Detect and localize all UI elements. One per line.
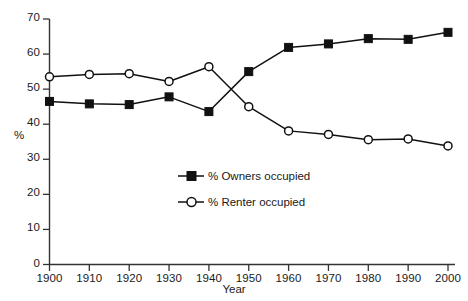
legend-markers: [178, 172, 204, 207]
data-point-owners: [444, 28, 452, 36]
data-point-owners: [324, 40, 332, 48]
legend-marker-owners: [187, 172, 196, 181]
data-point-owners: [85, 100, 93, 108]
data-point-owners: [205, 108, 213, 116]
y-axis-ticks: [43, 19, 50, 265]
y-axis-tick-label: 60: [0, 46, 40, 58]
axis-lines: [50, 19, 456, 265]
y-axis-tick-label: 30: [0, 151, 40, 163]
data-point-renter: [444, 142, 452, 150]
y-axis-tick-label: 10: [0, 221, 40, 233]
x-axis-ticks: [50, 265, 449, 272]
data-point-owners: [46, 97, 54, 105]
data-point-renter: [205, 63, 213, 71]
data-point-renter: [85, 70, 93, 78]
y-axis-title: %: [8, 129, 30, 141]
data-point-owners: [125, 101, 133, 109]
data-point-owners: [285, 43, 293, 51]
data-point-owners: [404, 35, 412, 43]
legend-item-label-renter: % Renter occupied: [208, 196, 305, 208]
data-point-renter: [125, 70, 133, 78]
data-point-owners: [165, 93, 173, 101]
data-point-renter: [404, 135, 412, 143]
data-point-owners: [364, 35, 372, 43]
data-point-renter: [324, 130, 332, 138]
data-point-renter: [364, 136, 372, 144]
y-axis-tick-label: 50: [0, 81, 40, 93]
data-point-renter: [285, 127, 293, 135]
data-point-renter: [245, 103, 253, 111]
chart-plot-area: [0, 0, 468, 301]
data-point-owners: [245, 68, 253, 76]
data-point-renter: [165, 77, 173, 85]
legend-item-label-owners: % Owners occupied: [208, 170, 310, 182]
y-axis-tick-label: 70: [0, 11, 40, 23]
series-layer: [46, 28, 453, 150]
y-axis-tick-label: 20: [0, 186, 40, 198]
legend-marker-renter: [187, 198, 196, 207]
chart-container: 010203040506070 190019101920193019401950…: [0, 0, 468, 301]
x-axis-title: Year: [0, 283, 468, 295]
y-axis-tick-label: 40: [0, 116, 40, 128]
y-axis-tick-label: 0: [0, 257, 40, 269]
data-point-renter: [46, 73, 54, 81]
